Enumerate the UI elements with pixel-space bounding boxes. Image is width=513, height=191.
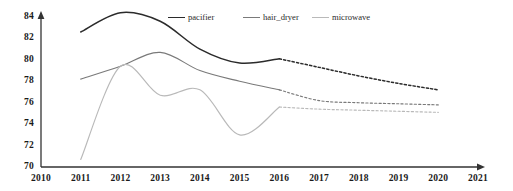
chart-plot-area xyxy=(0,0,513,191)
series-line-hair_dryer-forecast xyxy=(279,90,438,105)
y-axis-tick-70: 70 xyxy=(8,161,34,171)
legend-label-pacifier: pacifier xyxy=(188,12,214,22)
x-axis-tick-2011: 2011 xyxy=(61,173,101,183)
series-lines xyxy=(81,12,439,159)
y-axis-tick-82: 82 xyxy=(8,32,34,42)
x-axis-tick-2012: 2012 xyxy=(100,173,140,183)
y-axis-tick-76: 76 xyxy=(8,97,34,107)
line-chart: 7072747678808284 20102011201220132014201… xyxy=(0,0,513,191)
series-line-hair_dryer-actual xyxy=(81,52,280,90)
legend-label-hair_dryer: hair_dryer xyxy=(263,12,299,22)
legend-item-microwave[interactable]: microwave xyxy=(312,11,370,23)
y-axis-tick-84: 84 xyxy=(8,11,34,21)
x-axis-tick-2016: 2016 xyxy=(259,173,299,183)
x-axis-tick-2015: 2015 xyxy=(220,173,260,183)
y-axis-tick-72: 72 xyxy=(8,140,34,150)
legend-label-microwave: microwave xyxy=(332,12,370,22)
x-axis-tick-2013: 2013 xyxy=(140,173,180,183)
y-axis-tick-74: 74 xyxy=(8,118,34,128)
x-axis-tick-2021: 2021 xyxy=(458,173,498,183)
series-line-microwave-actual xyxy=(81,64,280,159)
legend-swatch-pacifier-icon xyxy=(168,17,185,18)
y-axis-arrow-icon xyxy=(38,11,45,19)
legend-item-hair_dryer[interactable]: hair_dryer xyxy=(243,11,299,23)
x-axis-tick-2020: 2020 xyxy=(418,173,458,183)
x-axis-tick-2014: 2014 xyxy=(180,173,220,183)
series-line-pacifier-forecast xyxy=(279,59,438,90)
x-axis-tick-2019: 2019 xyxy=(379,173,419,183)
legend-swatch-microwave-icon xyxy=(312,17,329,18)
axis-lines xyxy=(38,11,485,170)
legend-item-pacifier[interactable]: pacifier xyxy=(168,11,214,23)
series-line-microwave-forecast xyxy=(279,107,438,112)
legend-swatch-hair_dryer-icon xyxy=(243,17,260,18)
x-axis-arrow-icon xyxy=(477,164,485,171)
x-axis-tick-2017: 2017 xyxy=(299,173,339,183)
y-axis-tick-78: 78 xyxy=(8,75,34,85)
y-axis-tick-80: 80 xyxy=(8,54,34,64)
x-axis-tick-2018: 2018 xyxy=(339,173,379,183)
x-axis-tick-2010: 2010 xyxy=(21,173,61,183)
